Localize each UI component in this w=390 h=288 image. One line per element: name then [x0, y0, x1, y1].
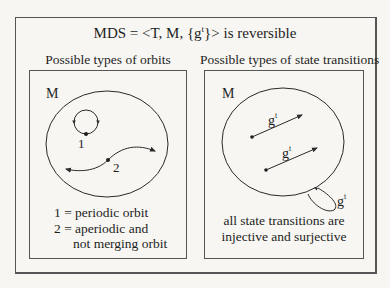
transitions-diagram: M gt gt gt	[222, 86, 347, 211]
state-space-ellipse	[222, 88, 344, 196]
state-point-icon	[250, 135, 254, 139]
state-point-icon	[84, 132, 88, 136]
state-point-icon	[106, 158, 110, 162]
transition-arrow-1: gt	[250, 111, 302, 139]
legend-item: not merging orbit	[54, 236, 167, 252]
caption-line: all state transitions are	[204, 213, 364, 229]
svg-text:gt: gt	[282, 144, 292, 161]
legend-item: 1 = periodic orbit	[54, 205, 167, 221]
transitions-caption: all state transitions are injective and …	[204, 213, 364, 244]
transition-arrow-2: gt	[264, 144, 317, 172]
orbit-1-label: 1	[78, 136, 85, 151]
svg-text:gt: gt	[268, 111, 278, 128]
orbit-2-label: 2	[113, 160, 120, 175]
state-space-label: M	[222, 86, 235, 101]
orbits-diagram: M 1 2	[46, 86, 168, 197]
boundary-loop: gt	[308, 187, 347, 211]
state-space-label: M	[46, 86, 59, 101]
arrow-head-icon	[72, 121, 76, 125]
svg-text:gt: gt	[337, 192, 347, 209]
aperiodic-orbit: 2	[66, 147, 155, 175]
state-space-ellipse	[46, 91, 168, 197]
state-point-icon	[264, 168, 268, 172]
orbits-legend: 1 = periodic orbit 2 = aperiodic and not…	[54, 205, 167, 252]
periodic-orbit: 1	[72, 110, 100, 151]
legend-item: 2 = aperiodic and	[54, 221, 167, 237]
caption-line: injective and surjective	[204, 229, 364, 245]
arrow-head-icon	[96, 121, 100, 125]
